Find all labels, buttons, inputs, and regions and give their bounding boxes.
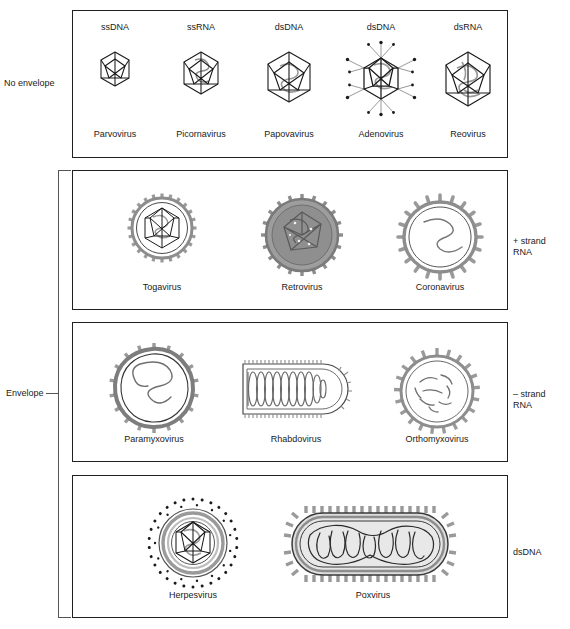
coronavirus-enveloped-clubbed-icon [394,192,486,282]
parvovirus-icosahedron-icon [98,50,132,88]
minus-strand-line2: RNA [513,400,546,411]
genome-label: ssDNA [101,22,129,32]
virus-cell-togavirus: Togavirus [92,170,232,310]
row-label-no-envelope: No envelope [4,78,55,89]
virus-cell-adenovirus: dsDNA [334,10,428,158]
virus-classification-diagram: No envelope Envelope ssDNA Parvovirus ss… [0,0,570,629]
orthomyxovirus-segmented-icon [389,344,485,438]
genome-label: ssRNA [187,22,215,32]
poxvirus-brick-shaped-icon [282,503,464,585]
right-label-plus-strand-rna: + strand RNA [513,236,546,258]
envelope-bracket [58,170,71,618]
virus-cell-rhabdovirus: Rhabdovirus [226,322,366,462]
top-cutoff-text [6,0,426,4]
picornavirus-icosahedron-icon [180,50,222,96]
virus-name: Adenovirus [358,129,403,139]
virus-cell-coronavirus: Coronavirus [372,170,508,310]
virus-name: Herpesvirus [169,590,217,600]
virus-name: Orthomyxovirus [405,434,468,444]
virus-name: Reovirus [450,129,486,139]
adenovirus-icosahedron-with-fibers-icon [338,50,424,119]
virus-cell-paramyxovirus: Paramyxovirus [82,322,226,462]
virus-cell-orthomyxovirus: Orthomyxovirus [366,322,508,462]
plus-strand-line1: + strand [513,236,546,247]
virus-name: Picornavirus [176,129,226,139]
rhabdovirus-bullet-helical-icon [239,358,353,420]
plus-strand-line2: RNA [513,247,546,258]
virus-cell-picornavirus: ssRNA Picornavirus [158,10,244,158]
virus-name: Parvovirus [94,129,137,139]
genome-label: dsDNA [275,22,304,32]
virus-cell-parvovirus: ssDNA Parvovirus [72,10,158,158]
virus-cell-reovirus: dsRNA Reovirus [428,10,508,158]
virus-name: Papovavirus [264,129,314,139]
reovirus-icosahedron-icon [440,50,496,108]
togavirus-enveloped-icosahedral-icon [126,192,198,264]
right-label-minus-strand-rna: – strand RNA [513,389,546,411]
virus-cell-herpesvirus: Herpesvirus [118,475,268,618]
genome-label: dsRNA [454,22,483,32]
virus-name: Retrovirus [281,282,322,292]
right-label-dsdna: dsDNA [513,547,542,558]
virus-cell-retrovirus: Retrovirus [232,170,372,310]
row-label-envelope: Envelope [6,388,44,399]
virus-name: Rhabdovirus [271,434,322,444]
virus-cell-poxvirus: Poxvirus [268,475,478,618]
virus-name: Togavirus [143,282,182,292]
virus-name: Paramyxovirus [124,434,184,444]
herpesvirus-layered-icon [145,495,241,591]
paramyxovirus-pleomorphic-icon [104,338,204,438]
virus-name: Poxvirus [356,590,391,600]
virus-cell-papovavirus: dsDNA Papovavirus [244,10,334,158]
genome-label: dsDNA [367,22,396,32]
minus-strand-line1: – strand [513,389,546,400]
retrovirus-enveloped-spherical-icon [259,192,345,278]
virus-name: Coronavirus [416,282,465,292]
papovavirus-icosahedron-icon [263,50,315,104]
